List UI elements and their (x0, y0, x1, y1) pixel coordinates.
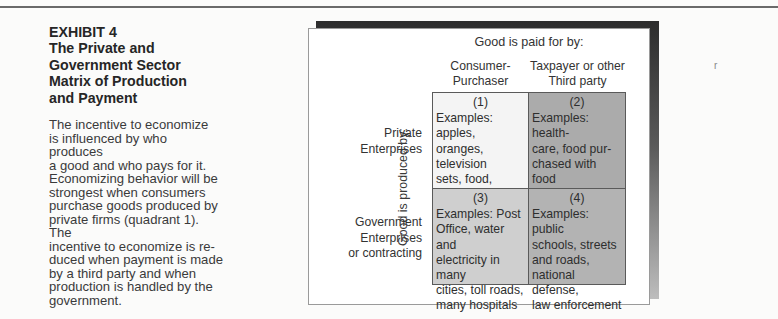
scan-artifact-mark: r (714, 60, 717, 71)
exhibit-caption: EXHIBIT 4 The Private and Government Sec… (49, 24, 224, 307)
quadrant-text-line: schools, streets (532, 238, 622, 253)
description-line: a good and who pays for it. (49, 159, 224, 173)
quadrant-number: (4) (532, 191, 622, 206)
quadrant-text-line: chased with food (532, 157, 622, 187)
exhibit-title-line: The Private and (49, 40, 224, 56)
top-rule (0, 6, 778, 8)
exhibit-title-line: Government Sector (49, 57, 224, 73)
quadrant-1: (1) Examples: apples, oranges, televisio… (433, 93, 529, 189)
description-line: duced when payment is made (49, 253, 224, 267)
quadrant-text-line: Examples: apples, (436, 111, 525, 141)
column-header-consumer-purchaser: Consumer- Purchaser (432, 59, 529, 89)
description-line: government. (49, 294, 224, 308)
description-line: The incentive to economize (49, 118, 224, 132)
column-header-line: Purchaser (432, 74, 529, 89)
row-header-line: Government (348, 215, 422, 231)
quadrant-text-line: national defense, (532, 268, 622, 298)
quadrant-number: (3) (436, 191, 525, 206)
exhibit-description: The incentive to economize is influenced… (49, 118, 224, 307)
description-line: Economizing behavior will be (49, 172, 224, 186)
row-header-line: Private (360, 126, 422, 142)
exhibit-number: EXHIBIT 4 (49, 24, 224, 40)
row-header-line: Enterprises (348, 231, 422, 247)
column-header-line: Consumer- (432, 59, 529, 74)
exhibit-title-line: Matrix of Production (49, 73, 224, 89)
quadrant-text-line: care, food pur- (532, 142, 622, 157)
column-header-third-party: Taxpayer or other Third party (529, 59, 626, 89)
quadrant-3: (3) Examples: Post Office, water and ele… (433, 189, 529, 284)
quadrant-text-line: Examples: Post (436, 207, 525, 222)
quadrant-text-line: Examples: health- (532, 111, 622, 141)
quadrant-text-line: oranges, television (436, 142, 525, 172)
exhibit-title-line: and Payment (49, 90, 224, 106)
quadrant-number: (2) (532, 95, 622, 110)
quadrant-number: (1) (436, 95, 525, 110)
description-line: by a third party and when (49, 267, 224, 281)
description-line: incentive to economize is re- (49, 240, 224, 254)
description-line: private firms (quadrant 1). The (49, 213, 224, 240)
row-header-line: or contracting (348, 246, 422, 262)
row-header-line: Enterprises (360, 142, 422, 158)
description-line: purchase goods produced by (49, 199, 224, 213)
quadrant-2: (2) Examples: health- care, food pur- ch… (529, 93, 625, 189)
column-header-line: Third party (529, 74, 626, 89)
exhibit-title: EXHIBIT 4 The Private and Government Sec… (49, 24, 224, 106)
column-axis-label: Good is paid for by: (432, 35, 626, 49)
quadrant-text-line: cities, toll roads, (436, 283, 525, 298)
row-header-government: Government Enterprises or contracting (348, 215, 422, 262)
quadrant-text-line: many hospitals (436, 298, 525, 313)
quadrant-text-line: electricity in many (436, 253, 525, 283)
row-header-private: Private Enterprises (360, 126, 422, 157)
column-header-line: Taxpayer or other (529, 59, 626, 74)
description-line: is influenced by who produces (49, 132, 224, 159)
quadrant-text-line: and roads, (532, 253, 622, 268)
description-line: strongest when consumers (49, 186, 224, 200)
quadrant-text-line: law enforcement (532, 298, 622, 313)
quadrant-text-line: Office, water and (436, 222, 525, 252)
quadrant-text-line: Examples: public (532, 207, 622, 237)
quadrant-4: (4) Examples: public schools, streets an… (529, 189, 625, 284)
description-line: production is handled by the (49, 280, 224, 294)
production-payment-matrix: (1) Examples: apples, oranges, televisio… (432, 92, 626, 285)
